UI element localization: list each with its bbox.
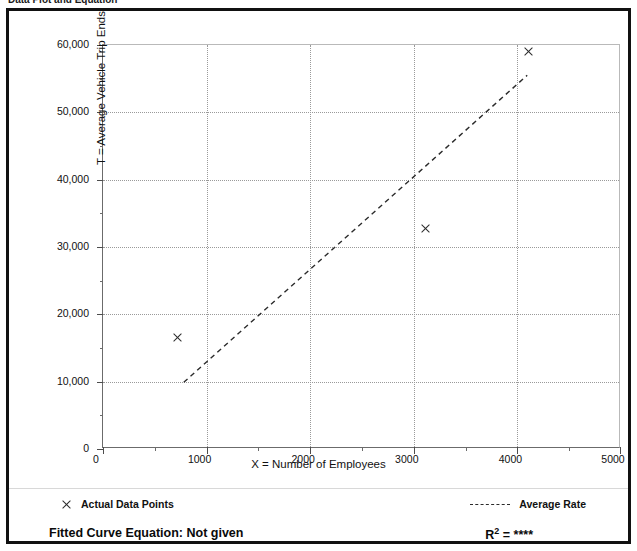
legend-item-average-rate: Average Rate xyxy=(470,498,586,510)
y-tick-label-10000: 10,000 xyxy=(29,376,89,386)
chart-legend: Actual Data Points Average Rate xyxy=(9,498,628,520)
fitted-curve-equation: Fitted Curve Equation: Not given xyxy=(49,526,243,540)
y-tick-label-50000: 50,000 xyxy=(29,106,89,116)
data-point-marker xyxy=(523,46,534,57)
cross-marker-icon xyxy=(61,499,72,510)
legend-label-average-rate: Average Rate xyxy=(519,498,586,510)
y-tick-label-20000: 20,000 xyxy=(29,308,89,318)
figure-caption: Data Plot and Equation xyxy=(8,0,308,5)
y-tick-label-40000: 40,000 xyxy=(29,174,89,184)
x-axis-title: X = Number of Employees xyxy=(9,458,628,470)
figure-frame: T = Average Vehicle Trip Ends 60,000 50,… xyxy=(6,8,631,544)
y-tick-label-0: 0 xyxy=(29,443,89,453)
r-squared-value: R2 = **** xyxy=(485,526,533,542)
dashed-line-icon xyxy=(470,504,510,505)
footer-divider xyxy=(9,488,628,489)
y-tick-label-60000: 60,000 xyxy=(29,39,89,49)
plot-area: T = Average Vehicle Trip Ends xyxy=(102,44,620,448)
data-point-marker xyxy=(172,332,183,343)
legend-item-actual-data-points: Actual Data Points xyxy=(61,498,174,510)
r-squared-symbol: R xyxy=(485,528,494,542)
chart-footer: Fitted Curve Equation: Not given R2 = **… xyxy=(9,526,628,550)
data-point-marker xyxy=(420,223,431,234)
legend-label-actual-data-points: Actual Data Points xyxy=(81,498,174,510)
y-axis-title: T = Average Vehicle Trip Ends xyxy=(95,11,107,165)
average-rate-line xyxy=(103,45,621,449)
r-squared-exponent: 2 xyxy=(494,526,499,536)
y-tick-label-30000: 30,000 xyxy=(29,241,89,251)
r-squared-number: = **** xyxy=(503,528,533,542)
